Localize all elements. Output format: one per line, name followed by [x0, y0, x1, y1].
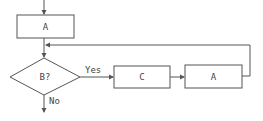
process-a-2-label: A — [211, 72, 217, 82]
no-branch-arrowhead-icon — [42, 108, 47, 113]
loop-back-arrowhead-icon — [45, 43, 50, 48]
decision-b-label: B? — [40, 72, 51, 82]
process-a-1-label: A — [43, 22, 49, 32]
a-to-decision-arrowhead-icon — [42, 53, 47, 58]
no-label: No — [49, 96, 60, 106]
yes-label: Yes — [85, 65, 101, 75]
process-c-label: C — [139, 72, 144, 82]
flowchart-canvas: A B? Yes C A No — [0, 0, 263, 121]
entry-arrowhead-icon — [42, 10, 47, 15]
c-to-a2-arrowhead-icon — [180, 75, 185, 80]
yes-branch-arrowhead-icon — [109, 75, 114, 80]
